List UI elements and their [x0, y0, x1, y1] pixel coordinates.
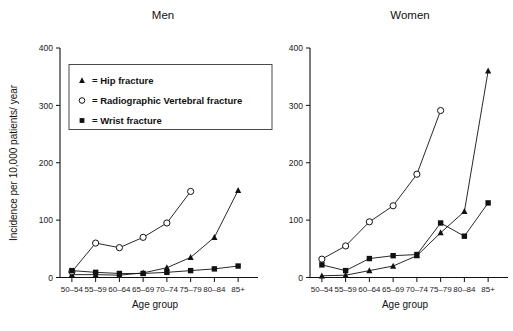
- men-marker-triangle-0-5: [188, 254, 194, 260]
- women-marker-square-2-0: [319, 262, 324, 267]
- women-marker-square-2-3: [390, 253, 395, 258]
- men-marker-circle-1-3: [140, 234, 146, 240]
- y-axis-title: Incidence per 10,000 patients/ year: [8, 84, 19, 241]
- men-marker-circle-1-1: [93, 240, 99, 246]
- women-marker-square-2-7: [485, 200, 490, 205]
- legend-label-1: = Radiographic Vertebral fracture: [92, 95, 242, 106]
- women-marker-circle-1-4: [414, 171, 420, 177]
- men-marker-circle-1-4: [164, 220, 170, 226]
- women-y-tick-label-200: 200: [289, 158, 303, 168]
- men-marker-triangle-0-6: [211, 234, 217, 240]
- men-x-tick-label-5: 75–79: [180, 285, 203, 294]
- women-marker-square-2-5: [438, 220, 443, 225]
- women-x-tick-label-5: 75–79: [430, 285, 453, 294]
- men-y-tick-label-200: 200: [39, 158, 53, 168]
- men-series-line-1: [72, 191, 191, 271]
- men-marker-square-2-1: [93, 270, 98, 275]
- men-marker-square-2-5: [188, 268, 193, 273]
- men-x-tick-label-4: 70–74: [156, 285, 179, 294]
- legend-square-filled-icon: [80, 118, 85, 123]
- women-x-tick-label-1: 55–59: [335, 285, 358, 294]
- men-marker-square-2-2: [117, 271, 122, 276]
- men-y-tick-label-400: 400: [39, 43, 53, 53]
- women-marker-circle-1-1: [343, 243, 349, 249]
- figure-root: Men010020030040050–5455–5960–6465–6970–7…: [0, 0, 513, 331]
- men-panel-title: Men: [152, 9, 174, 21]
- chart-canvas: Men010020030040050–5455–5960–6465–6970–7…: [0, 0, 513, 331]
- men-marker-triangle-0-4: [164, 264, 170, 270]
- legend-circle-open-icon: [79, 98, 85, 104]
- women-marker-square-2-2: [367, 256, 372, 261]
- women-marker-square-2-4: [414, 252, 419, 257]
- men-x-tick-label-7: 85+: [231, 285, 245, 294]
- men-marker-triangle-0-7: [235, 187, 241, 193]
- women-series-line-1: [322, 111, 441, 260]
- women-x-tick-label-3: 65–69: [382, 285, 405, 294]
- women-panel-title: Women: [390, 9, 429, 21]
- women-x-tick-label-0: 50–54: [311, 285, 334, 294]
- women-x-tick-label-4: 70–74: [406, 285, 429, 294]
- men-x-axis-title: Age group: [132, 299, 179, 310]
- men-y-tick-label-300: 300: [39, 101, 53, 111]
- women-marker-square-2-1: [343, 268, 348, 273]
- legend-label-2: = Wrist fracture: [92, 115, 162, 126]
- men-marker-circle-1-2: [116, 245, 122, 251]
- women-y-tick-label-0: 0: [298, 273, 303, 283]
- women-marker-square-2-6: [462, 233, 467, 238]
- women-x-axis-title: Age group: [382, 299, 429, 310]
- men-series-line-0: [72, 190, 238, 275]
- men-marker-square-2-3: [140, 271, 145, 276]
- women-x-tick-label-2: 60–64: [358, 285, 381, 294]
- men-x-tick-label-6: 80–84: [203, 285, 226, 294]
- women-y-tick-label-300: 300: [289, 101, 303, 111]
- women-marker-circle-1-0: [319, 256, 325, 262]
- men-y-tick-label-0: 0: [48, 273, 53, 283]
- men-marker-square-2-4: [164, 270, 169, 275]
- women-marker-triangle-0-7: [485, 68, 491, 74]
- men-marker-square-2-6: [212, 266, 217, 271]
- men-x-tick-label-2: 60–64: [108, 285, 131, 294]
- women-marker-triangle-0-3: [390, 263, 396, 269]
- women-x-tick-label-6: 80–84: [453, 285, 476, 294]
- legend-label-0: = Hip fracture: [92, 75, 154, 86]
- men-x-tick-label-3: 65–69: [132, 285, 155, 294]
- women-marker-triangle-0-6: [461, 208, 467, 214]
- men-marker-square-2-7: [235, 263, 240, 268]
- women-marker-circle-1-3: [390, 203, 396, 209]
- women-y-tick-label-400: 400: [289, 43, 303, 53]
- men-x-tick-label-0: 50–54: [61, 285, 84, 294]
- women-y-tick-label-100: 100: [289, 215, 303, 225]
- men-marker-circle-1-5: [188, 188, 194, 194]
- men-marker-square-2-0: [69, 268, 74, 273]
- men-y-tick-label-100: 100: [39, 215, 53, 225]
- men-x-tick-label-1: 55–59: [85, 285, 108, 294]
- women-marker-circle-1-2: [366, 219, 372, 225]
- women-marker-circle-1-5: [438, 107, 444, 113]
- women-x-tick-label-7: 85+: [481, 285, 495, 294]
